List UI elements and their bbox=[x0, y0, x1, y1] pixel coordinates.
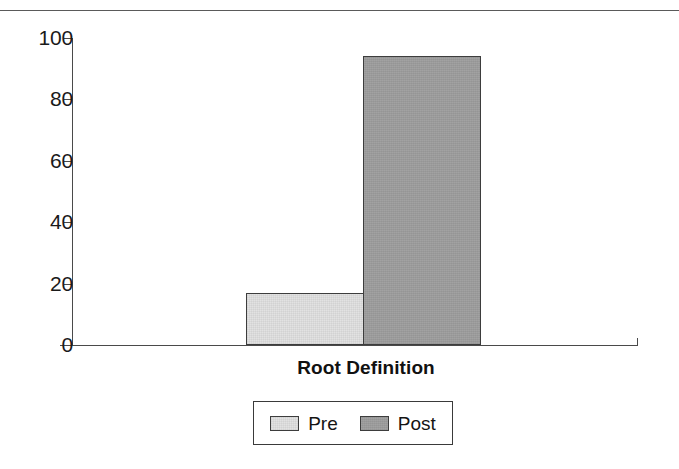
chart-legend: Pre Post bbox=[253, 401, 453, 445]
x-axis-category-label: Root Definition bbox=[186, 357, 546, 379]
legend-swatch-post-icon bbox=[360, 416, 389, 431]
legend-item-post: Post bbox=[360, 414, 436, 433]
bar-pre bbox=[246, 293, 364, 345]
legend-label-post: Post bbox=[398, 414, 436, 433]
y-tick-label: 40 bbox=[29, 211, 73, 232]
x-axis-line bbox=[60, 345, 638, 346]
y-tick-label: 20 bbox=[29, 273, 73, 294]
legend-item-pre: Pre bbox=[270, 414, 338, 433]
y-tick-label: 60 bbox=[29, 150, 73, 171]
y-tick-label: 80 bbox=[29, 88, 73, 109]
y-tick-label: 0 bbox=[29, 334, 73, 355]
plot-area bbox=[73, 38, 638, 345]
page-rule-divider bbox=[0, 10, 679, 11]
legend-label-pre: Pre bbox=[308, 414, 338, 433]
bar-post bbox=[363, 56, 481, 345]
bar-chart-figure: 100 80 60 40 20 0 Root Definition Pre Po… bbox=[0, 0, 679, 469]
y-tick-label: 100 bbox=[29, 27, 73, 48]
legend-swatch-pre-icon bbox=[270, 416, 299, 431]
